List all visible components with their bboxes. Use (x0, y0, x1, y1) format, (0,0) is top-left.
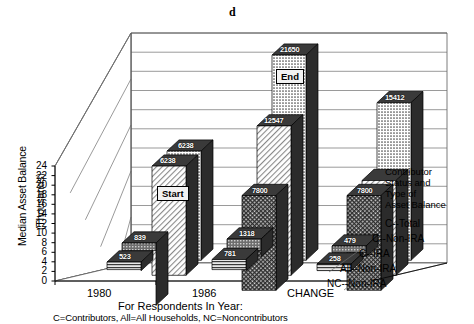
chart-figure: d Median Asset Balance (Thousands) 24 22… (0, 0, 474, 324)
bar-value-change-c-total: 15412 (385, 93, 404, 102)
bar-value-1986-all-nonira: 1318 (239, 229, 255, 238)
bar-value-change-nc-nonira: 258 (329, 254, 341, 263)
legend-title-line-2: Status and (385, 177, 430, 188)
y-tick-0: 0 (25, 275, 47, 286)
bar-value-1986-c-total: 21650 (280, 45, 299, 54)
bar-value-1986-nc-nonira: 781 (224, 249, 236, 258)
x-tick-1986: 1986 (192, 287, 216, 299)
bar-value-1986-c-ira: 7800 (252, 186, 268, 195)
plot-side-wall (52, 33, 132, 281)
legend-item-c-ira: C--IRA (359, 248, 390, 259)
bar-value-1980-all-nonira: 839 (134, 233, 146, 242)
bar-value-1980-nc-nonira: 523 (119, 252, 131, 261)
bar-value-change-all-nonira: 479 (344, 236, 356, 245)
x-axis-caption: For Respondents In Year: (118, 300, 243, 312)
chart-canvas (0, 0, 474, 324)
annotation-end: End (276, 69, 304, 84)
legend-item-c-nonira: C--Non-IRA (372, 233, 424, 244)
legend-item-all-nonira: All--Non-IRA (340, 263, 396, 274)
bar-value-1980-c-total: 6238 (178, 141, 194, 150)
bar-value-1986-c-nonira: 12547 (264, 116, 283, 125)
legend-item-c-total: C--Total (385, 218, 420, 229)
bar-value-change-c-ira: 7800 (357, 186, 373, 195)
chart-footnote: C=Contributors, All=All Households, NC=N… (53, 312, 288, 323)
legend-title-line-3: Type of (385, 188, 416, 199)
legend-title-line-4: Asset Balance (385, 199, 446, 210)
legend-title-line-1: Contributor (385, 166, 432, 177)
bar-value-1980-c-nonira: 6238 (160, 156, 176, 165)
x-tick-1980: 1980 (87, 287, 111, 299)
legend-item-nc-nonira: NC--Non-IRA (327, 278, 386, 289)
annotation-start: Start (157, 186, 189, 201)
chart-title: d (229, 5, 236, 20)
